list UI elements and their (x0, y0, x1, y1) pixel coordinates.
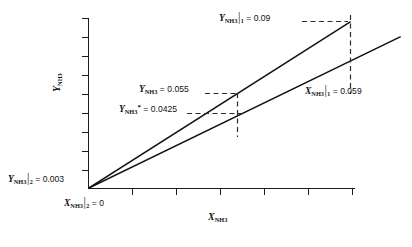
annotation-y-inlet-subscript: NH (225, 17, 234, 24)
annotation-y-star-equals: = (141, 104, 151, 114)
x-axis-title: XNH3 (208, 212, 227, 223)
annotation-x-outlet-subscript: NH (70, 202, 79, 209)
x-axis-ticks (133, 189, 353, 196)
x-axis-title-subscript: NH (215, 216, 224, 223)
chart-plot-area (0, 0, 412, 247)
annotation-y-star-value: 0.0425 (151, 104, 177, 114)
y-axis-title-symbol: Y (51, 86, 62, 92)
x-axis-title-symbol: X (208, 211, 215, 222)
annotation-x-inlet-value: 0.059 (340, 86, 362, 96)
y-axis-title: YNH3 (52, 46, 63, 92)
annotation-x-outlet-equals: = (89, 198, 99, 208)
annotation-y-bulk-equals: = (157, 84, 167, 94)
annotation-y-bulk-value: 0.055 (167, 84, 189, 94)
annotation-y-inlet-equals: = (244, 13, 254, 23)
y-axis-title-subscript: NH (56, 76, 63, 85)
annotation-y-outlet-value: 0.003 (43, 174, 65, 184)
annotation-y-outlet-equals: = (33, 174, 43, 184)
figure-container: YNH3|1 = 0.09 XNH3|1 = 0.059 YNH3 = 0.05… (0, 0, 412, 247)
annotation-y-inlet-value: 0.09 (254, 13, 271, 23)
x-axis-title-subscript-num: 3 (224, 216, 227, 223)
annotation-y-star-subscript: NH (125, 108, 134, 115)
annotation-x-inlet-subscript: NH (311, 90, 320, 97)
annotation-y-bulk-subscript: NH (145, 88, 154, 95)
annotation-x-outlet-value: 0 (99, 198, 104, 208)
annotation-x-inlet-equals: = (330, 86, 340, 96)
guide-lines (187, 15, 351, 137)
annotation-y-bulk: YNH3 = 0.055 (139, 85, 189, 95)
annotation-y-outlet: YNH3|2 = 0.003 (8, 172, 64, 185)
y-axis-ticks (82, 19, 89, 171)
annotation-y-inlet: YNH3|1 = 0.09 (219, 11, 270, 24)
annotation-y-star: YNH3* = 0.0425 (119, 104, 177, 115)
annotation-x-inlet: XNH3|1 = 0.059 (305, 84, 362, 97)
annotation-x-outlet: XNH3|2 = 0 (64, 196, 104, 209)
annotation-y-outlet-subscript: NH (14, 178, 23, 185)
y-axis-title-subscript-num: 3 (56, 73, 63, 76)
